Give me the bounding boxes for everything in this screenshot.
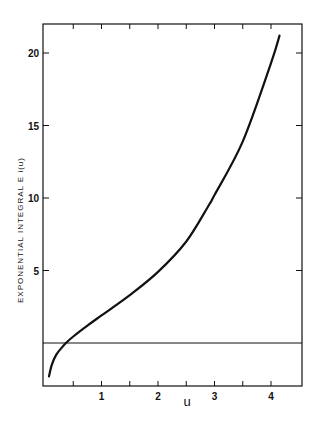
y-axis-tick-labels: 5101520 [28, 48, 40, 277]
x-tick-label: 4 [268, 391, 274, 402]
x-axis-ticks [73, 24, 271, 386]
y-axis-label: EXPONENTIAL INTEGRAL E i(u) [16, 157, 25, 303]
y-tick-label: 15 [28, 121, 40, 132]
ei-curve [49, 36, 280, 377]
y-tick-label: 20 [28, 48, 40, 59]
plot-frame [43, 24, 302, 386]
y-tick-label: 10 [28, 193, 40, 204]
y-tick-label: 5 [33, 266, 39, 277]
x-tick-label: 3 [212, 391, 218, 402]
x-tick-label: 1 [99, 391, 105, 402]
x-tick-label: 2 [155, 391, 161, 402]
x-axis-label: u [183, 394, 190, 409]
chart-canvas: 1234 5101520 u EXPONENTIAL INTEGRAL E i(… [0, 0, 318, 422]
